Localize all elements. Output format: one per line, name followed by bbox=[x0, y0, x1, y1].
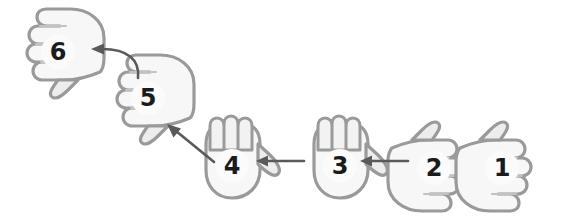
hand-number-1: 1 bbox=[452, 118, 552, 216]
arrow-3-to-4 bbox=[254, 152, 306, 170]
hand-icon-1: 1 bbox=[452, 118, 552, 216]
hand-number-3: 3 bbox=[323, 149, 357, 183]
hand-number-4: 4 bbox=[215, 149, 249, 183]
arrow-5-to-6 bbox=[80, 38, 146, 80]
diagram-canvas: 6 5 4 3 bbox=[0, 0, 561, 216]
arrow-2-to-3 bbox=[358, 152, 410, 170]
arrow-4-to-5 bbox=[160, 120, 218, 166]
